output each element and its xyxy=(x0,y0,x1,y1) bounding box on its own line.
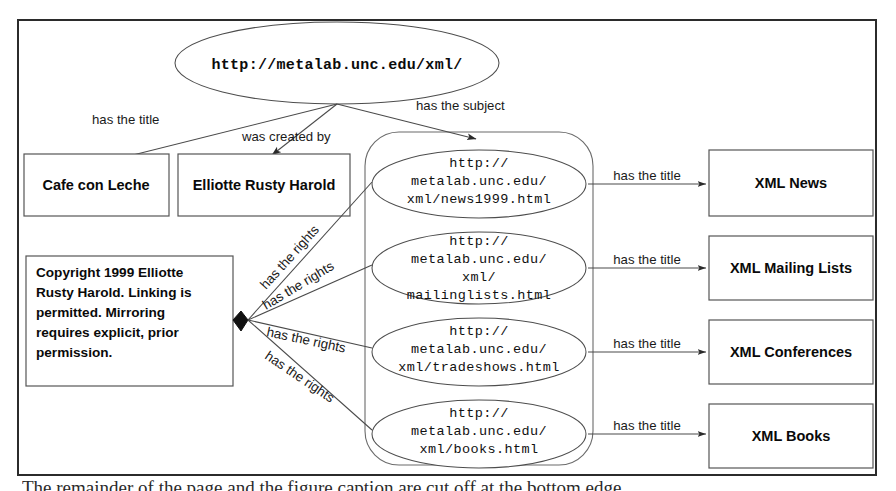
rights-box-line-1: Copyright 1999 Elliotte xyxy=(36,265,184,280)
resource-uri-tradeshows-line-2: metalab.unc.edu/ xyxy=(411,342,547,357)
resource-uri-news1999-line-1: http:// xyxy=(449,156,509,171)
clipped-caption-text: The remainder of the page and the figure… xyxy=(22,477,882,491)
resource-uri-mailinglists-line-4: mailinglists.html xyxy=(407,288,552,303)
edge-label-has-the-title-root: has the title xyxy=(92,112,159,127)
resource-uri-mailinglists-line-2: metalab.unc.edu/ xyxy=(411,252,547,267)
edge-label-was-created-by: was created by xyxy=(241,129,331,144)
rights-box-line-5: permission. xyxy=(36,345,112,360)
resource-uri-books-line-2: metalab.unc.edu/ xyxy=(411,424,547,439)
rights-box-line-2: Rusty Harold. Linking is xyxy=(36,285,192,300)
rights-diamond-marker xyxy=(233,311,248,331)
title-label-xml-books: XML Books xyxy=(752,428,831,444)
rdf-graph-diagram: http://metalab.unc.edu/xml/ has the titl… xyxy=(0,0,896,491)
title-label-xml-conferences: XML Conferences xyxy=(730,344,852,360)
edge-label-has-the-title-mailinglists: has the title xyxy=(613,252,680,267)
literal-label-elliotte-rusty-harold: Elliotte Rusty Harold xyxy=(193,177,336,193)
rights-box-line-3: permitted. Mirroring xyxy=(36,305,165,320)
resource-uri-mailinglists-line-3: xml/ xyxy=(462,270,496,285)
title-label-xml-news: XML News xyxy=(755,175,827,191)
title-label-xml-mailing-lists: XML Mailing Lists xyxy=(730,260,852,276)
edge-label-has-the-subject: has the subject xyxy=(416,98,505,113)
root-node-label: http://metalab.unc.edu/xml/ xyxy=(211,57,462,74)
figure-page: http://metalab.unc.edu/xml/ has the titl… xyxy=(0,0,896,491)
edge-label-has-the-title-books: has the title xyxy=(613,418,680,433)
resource-uri-mailinglists-line-1: http:// xyxy=(449,234,509,249)
resource-uri-tradeshows-line-1: http:// xyxy=(449,324,509,339)
edge-label-has-the-rights-3: has the rights xyxy=(265,324,347,355)
literal-label-cafe-con-leche: Cafe con Leche xyxy=(42,177,149,193)
edge-label-has-the-title-news1999: has the title xyxy=(613,168,680,183)
resource-uri-books-line-3: xml/books.html xyxy=(419,442,538,457)
resource-uri-news1999-line-2: metalab.unc.edu/ xyxy=(411,174,547,189)
edge-label-has-the-title-tradeshows: has the title xyxy=(613,336,680,351)
edge-label-has-the-rights-4: has the rights xyxy=(262,348,337,406)
resource-uri-news1999-line-3: xml/news1999.html xyxy=(407,192,552,207)
resource-uri-tradeshows-line-3: xml/tradeshows.html xyxy=(398,360,560,375)
resource-uri-books-line-1: http:// xyxy=(449,406,509,421)
rights-box-line-4: requires explicit, prior xyxy=(36,325,179,340)
